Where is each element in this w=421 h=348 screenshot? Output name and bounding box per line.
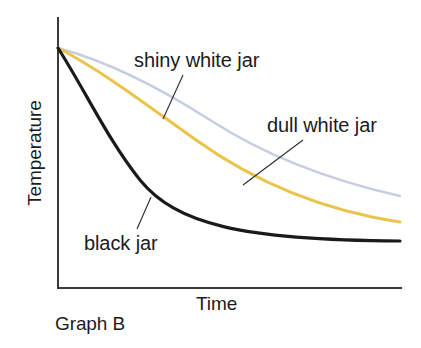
y-axis-label: Temperature <box>24 83 46 223</box>
figure-caption: Graph B <box>55 313 125 335</box>
x-axis-label: Time <box>196 293 237 315</box>
curve-label-shiny-white-jar: shiny white jar <box>134 49 259 72</box>
graph-b-figure: shiny white jar dull white jar black jar… <box>0 0 421 348</box>
leader-line-shiny-white-jar <box>163 75 183 119</box>
curve-label-black-jar: black jar <box>84 232 158 255</box>
curve-label-dull-white-jar: dull white jar <box>267 114 377 137</box>
leader-line-black-jar <box>137 197 151 229</box>
